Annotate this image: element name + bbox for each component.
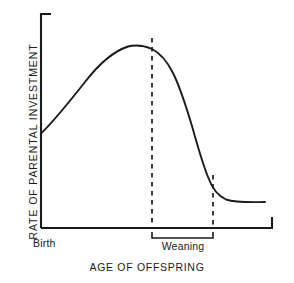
figure-container: RATE OF PARENTAL INVESTMENT Birth Weanin… bbox=[0, 0, 294, 283]
birth-label: Birth bbox=[33, 237, 56, 249]
weaning-bracket bbox=[152, 232, 213, 238]
x-axis-line bbox=[41, 217, 272, 228]
y-axis-label-container: RATE OF PARENTAL INVESTMENT bbox=[0, 0, 24, 283]
parental-investment-curve bbox=[42, 45, 266, 202]
weaning-label: Weaning bbox=[152, 240, 214, 252]
x-axis-label: AGE OF OFFSPRING bbox=[0, 261, 294, 273]
